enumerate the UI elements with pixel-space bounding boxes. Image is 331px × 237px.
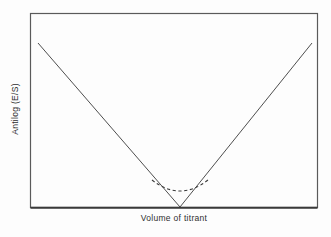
titration-figure: Antilog (E/S) Volume of titrant [0, 0, 331, 237]
post-equivalence-line [180, 43, 312, 207]
x-axis-label: Volume of titrant [30, 213, 318, 223]
dashed-observed-curve [152, 180, 208, 191]
pre-equivalence-line [38, 43, 180, 207]
plot-area [0, 0, 331, 237]
plot-frame [31, 14, 318, 208]
y-axis-label: Antilog (E/S) [10, 64, 20, 154]
x-axis-label-text: Volume of titrant [141, 213, 208, 223]
y-axis-label-text: Antilog (E/S) [10, 83, 20, 135]
